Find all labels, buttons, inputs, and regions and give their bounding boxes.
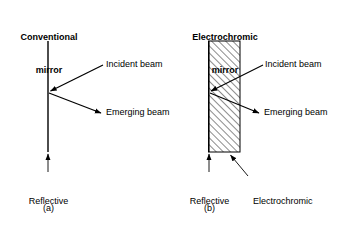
panel-b-title-line2: mirror bbox=[179, 65, 271, 76]
panel-b-incident-beam-label: Incident beam bbox=[265, 59, 322, 70]
figure-canvas: Conventional mirror Incident beam Emergi… bbox=[0, 0, 341, 225]
panel-b-caption: (b) bbox=[167, 203, 252, 214]
panel-a-caption: (a) bbox=[6, 203, 91, 214]
panel-b-emerging-beam-label: Emerging beam bbox=[264, 107, 328, 118]
panel-b-title-line1: Electrochromic bbox=[179, 32, 271, 43]
panel-a-title: Conventional mirror bbox=[4, 10, 94, 98]
panel-b-layers-line1: Electrochromic bbox=[253, 196, 341, 207]
panel-a-incident-beam-label: Incident beam bbox=[106, 59, 163, 70]
panel-a-emerging-beam-label: Emerging beam bbox=[106, 107, 170, 118]
panel-b-layers-label: Electrochromic layers bbox=[253, 174, 341, 225]
panel-b-reflective-surface-label: Reflective surface bbox=[167, 174, 252, 225]
panel-a-title-line1: Conventional bbox=[4, 32, 94, 43]
panel-a-reflective-surface-label: Reflective surface bbox=[6, 174, 91, 225]
panel-a-title-line2: mirror bbox=[4, 65, 94, 76]
panel-b-layers-leader bbox=[231, 155, 249, 176]
panel-b-title: Electrochromic mirror bbox=[179, 10, 271, 98]
